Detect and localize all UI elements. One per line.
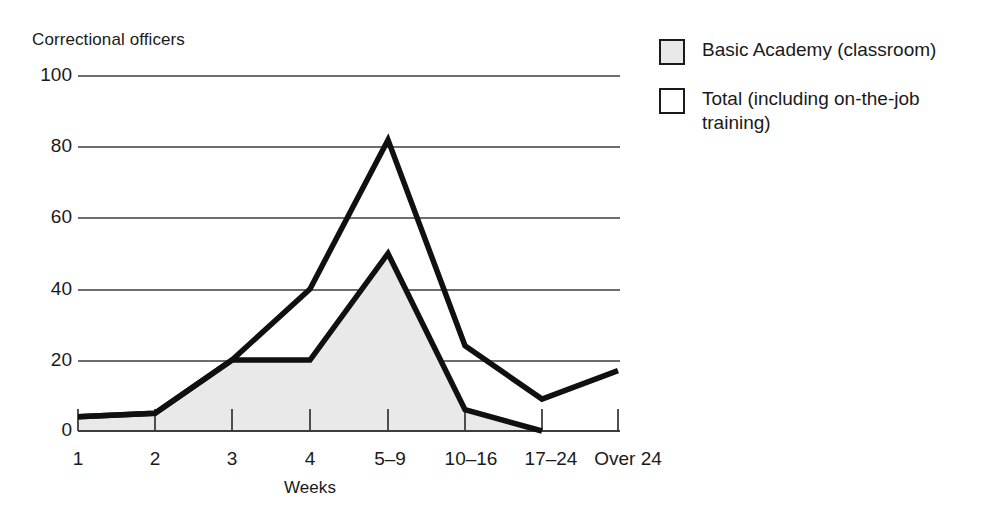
plot-area — [0, 0, 700, 460]
x-tick-label-4: 4 — [305, 448, 316, 470]
x-tick-label-3: 3 — [227, 448, 238, 470]
x-tick-label-1: 1 — [73, 448, 84, 470]
x-axis-title: Weeks — [0, 478, 620, 498]
x-tick-label-5-9: 5–9 — [374, 448, 406, 470]
x-tick-label-10-16: 10–16 — [445, 448, 498, 470]
legend-label-basic-academy: Basic Academy (classroom) — [702, 38, 936, 62]
series-area-basic-academy — [78, 254, 618, 432]
legend-item-total: Total (including on-the-job training) — [659, 87, 989, 135]
legend-swatch-filled-icon — [659, 39, 685, 65]
legend-label-total: Total (including on-the-job training) — [702, 87, 972, 135]
x-tick-label-2: 2 — [150, 448, 161, 470]
chart-legend: Basic Academy (classroom) Total (includi… — [659, 38, 989, 157]
legend-item-basic-academy: Basic Academy (classroom) — [659, 38, 989, 65]
chart-container: Correctional officers 100 80 60 40 20 0 — [0, 0, 993, 521]
x-tick-label-17-24: 17–24 — [525, 448, 578, 470]
x-tick-label-over-24: Over 24 — [594, 448, 662, 470]
legend-swatch-hollow-icon — [659, 88, 685, 114]
